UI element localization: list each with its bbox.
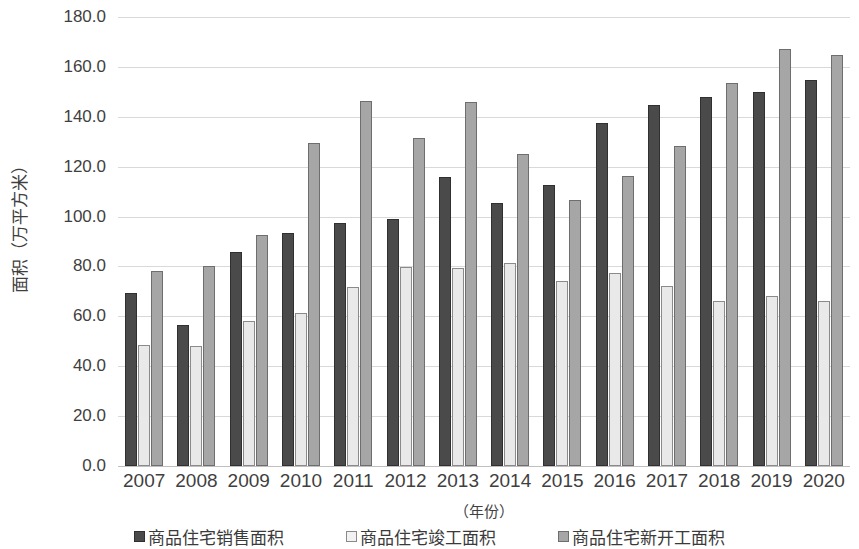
x-axis-tick-label: 2009	[223, 470, 275, 494]
bar[interactable]	[543, 185, 555, 466]
bar[interactable]	[805, 80, 817, 466]
bar-group-2012	[379, 17, 431, 466]
legend-swatch-icon	[346, 531, 357, 542]
bar-group-2013	[432, 17, 484, 466]
bar[interactable]	[700, 97, 712, 466]
bar-group-2017	[641, 17, 693, 466]
y-axis-tick-label: 40.0	[6, 356, 106, 376]
legend-swatch-icon	[134, 531, 145, 542]
x-axis-tick-label: 2007	[118, 470, 170, 494]
bar[interactable]	[256, 235, 268, 466]
bar[interactable]	[203, 266, 215, 466]
bar[interactable]	[138, 345, 150, 466]
bar[interactable]	[556, 281, 568, 466]
bar[interactable]	[282, 233, 294, 466]
bar[interactable]	[308, 143, 320, 466]
x-axis-tick-label: 2014	[484, 470, 536, 494]
bars-layer	[118, 17, 850, 466]
bar[interactable]	[726, 83, 738, 466]
legend-item[interactable]: 商品住宅销售面积	[134, 524, 284, 549]
bar-group-2020	[798, 17, 850, 466]
bar[interactable]	[779, 49, 791, 466]
bar[interactable]	[674, 146, 686, 466]
y-axis-tick-label: 120.0	[6, 157, 106, 177]
bar-group-2007	[118, 17, 170, 466]
bar-group-2018	[693, 17, 745, 466]
x-axis-tick-label: 2011	[327, 470, 379, 494]
bar[interactable]	[334, 223, 346, 466]
bar-chart: 面积（万平方米） 0.020.040.060.080.0100.0120.014…	[0, 0, 859, 549]
x-axis-tick-label: 2013	[432, 470, 484, 494]
bar-group-2015	[536, 17, 588, 466]
y-axis-tick-label: 160.0	[6, 57, 106, 77]
bar-group-2019	[745, 17, 797, 466]
x-axis-tick-labels: 2007200820092010201120122013201420152016…	[118, 470, 850, 494]
gridline	[118, 466, 850, 467]
bar[interactable]	[753, 92, 765, 466]
x-axis-tick-label: 2018	[693, 470, 745, 494]
y-axis-tick-label: 0.0	[6, 456, 106, 476]
x-axis-tick-label: 2010	[275, 470, 327, 494]
legend-item[interactable]: 商品住宅竣工面积	[346, 524, 496, 549]
bar[interactable]	[622, 176, 634, 466]
bar[interactable]	[517, 154, 529, 466]
x-axis-tick-label: 2019	[745, 470, 797, 494]
bar[interactable]	[465, 102, 477, 466]
bar-group-2010	[275, 17, 327, 466]
bar[interactable]	[360, 101, 372, 466]
bar-group-2009	[223, 17, 275, 466]
bar[interactable]	[151, 271, 163, 466]
x-axis-title: （年份）	[118, 500, 850, 521]
x-axis-tick-label: 2017	[641, 470, 693, 494]
bar[interactable]	[125, 293, 137, 466]
y-axis-tick-label: 140.0	[6, 107, 106, 127]
bar[interactable]	[347, 287, 359, 466]
bar[interactable]	[439, 177, 451, 466]
y-axis-tick-label: 60.0	[6, 306, 106, 326]
x-axis-tick-label: 2015	[536, 470, 588, 494]
legend-item[interactable]: 商品住宅新开工面积	[558, 524, 725, 549]
y-axis-tick-label: 20.0	[6, 406, 106, 426]
legend-label: 商品住宅新开工面积	[572, 524, 725, 549]
bar[interactable]	[190, 346, 202, 466]
bar[interactable]	[452, 268, 464, 466]
bar[interactable]	[818, 301, 830, 466]
bar-group-2011	[327, 17, 379, 466]
bar[interactable]	[596, 123, 608, 466]
bar[interactable]	[661, 286, 673, 466]
x-axis-tick-label: 2008	[170, 470, 222, 494]
bar-group-2016	[589, 17, 641, 466]
x-axis-tick-label: 2020	[798, 470, 850, 494]
bar-group-2014	[484, 17, 536, 466]
bar[interactable]	[766, 296, 778, 466]
bar[interactable]	[569, 200, 581, 466]
x-axis-tick-label: 2012	[379, 470, 431, 494]
plot-area	[118, 17, 850, 466]
y-axis-tick-label: 180.0	[6, 7, 106, 27]
bar[interactable]	[504, 263, 516, 466]
bar[interactable]	[387, 219, 399, 466]
bar[interactable]	[413, 138, 425, 466]
legend-label: 商品住宅销售面积	[148, 524, 284, 549]
y-axis-tick-label: 100.0	[6, 207, 106, 227]
bar[interactable]	[230, 252, 242, 466]
bar[interactable]	[243, 321, 255, 466]
bar[interactable]	[400, 267, 412, 466]
bar[interactable]	[609, 273, 621, 466]
legend: 商品住宅销售面积商品住宅竣工面积商品住宅新开工面积	[0, 524, 859, 549]
bar[interactable]	[177, 325, 189, 466]
bar[interactable]	[713, 301, 725, 466]
x-axis-tick-label: 2016	[589, 470, 641, 494]
bar-group-2008	[170, 17, 222, 466]
bar[interactable]	[295, 313, 307, 466]
bar[interactable]	[648, 105, 660, 466]
legend-swatch-icon	[558, 531, 569, 542]
legend-label: 商品住宅竣工面积	[360, 524, 496, 549]
y-axis-tick-label: 80.0	[6, 256, 106, 276]
bar[interactable]	[491, 203, 503, 466]
bar[interactable]	[831, 55, 843, 466]
